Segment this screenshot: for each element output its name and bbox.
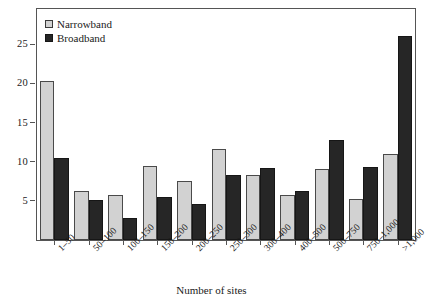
y-axis-tick-mark (30, 200, 35, 201)
bar-broadband (260, 168, 275, 240)
y-axis-tick-mark (30, 161, 35, 162)
legend-item-label: Narrowband (57, 18, 112, 30)
dark-square-swatch (45, 34, 53, 42)
bar-group (383, 9, 412, 240)
x-axis-tick-mark (157, 241, 158, 245)
y-axis-tick-label: 20 (17, 76, 28, 89)
bar-broadband (89, 200, 104, 240)
y-axis-tick-mark (30, 83, 35, 84)
bar-group (315, 9, 344, 240)
legend-item-label: Broadband (57, 32, 105, 44)
light-square-swatch (45, 20, 53, 28)
bar-broadband (363, 167, 378, 240)
x-axis-tick-mark (295, 241, 296, 245)
bar-group (246, 9, 275, 240)
y-axis-tick-label: 15 (17, 116, 28, 129)
bar-narrowband (74, 191, 89, 240)
bar-broadband (226, 175, 241, 240)
legend-item: Broadband (45, 31, 112, 44)
y-axis-tick-mark (30, 122, 35, 123)
x-axis-tick-mark (260, 241, 261, 245)
chart-legend: NarrowbandBroadband (45, 17, 112, 45)
y-axis-tick-label: 5 (23, 194, 28, 207)
x-axis-tick-mark (363, 241, 364, 245)
bar-group (349, 9, 378, 240)
x-axis-tick-mark (226, 241, 227, 245)
bar-narrowband (40, 81, 55, 240)
y-axis-tick-label: 25 (17, 37, 28, 50)
bar-group (177, 9, 206, 240)
x-axis-tick-mark (192, 241, 193, 245)
bar-group (212, 9, 241, 240)
x-axis-tick-mark (54, 241, 55, 245)
legend-item: Narrowband (45, 17, 112, 30)
bar-broadband (54, 158, 69, 240)
x-axis-tick-mark (123, 241, 124, 245)
x-axis-title: Number of sites (0, 283, 423, 297)
bar-broadband (398, 36, 413, 240)
bar-broadband (329, 140, 344, 240)
x-axis-tick-mark (398, 241, 399, 245)
bar-group (280, 9, 309, 240)
y-axis: 510152025 (0, 0, 36, 241)
x-axis-tick-mark (89, 241, 90, 245)
bar-group (143, 9, 172, 240)
bar-group (108, 9, 137, 240)
y-axis-tick-mark (30, 44, 35, 45)
x-axis: 1–5050–100100–150150–200200–250250–30030… (37, 241, 415, 283)
y-axis-tick-label: 10 (17, 155, 28, 168)
bar-broadband (295, 191, 310, 240)
x-axis-tick-mark (329, 241, 330, 245)
